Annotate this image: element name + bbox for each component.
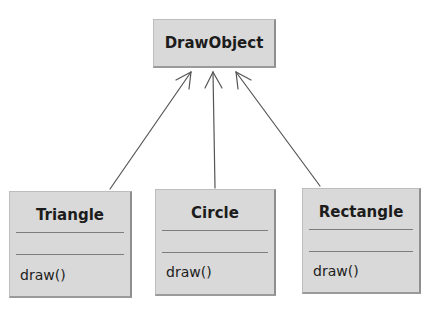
operations-divider [16, 254, 124, 255]
operations-divider [309, 251, 413, 252]
arrow-circle-to-drawobject [205, 72, 222, 188]
arrow-triangle-to-drawobject [110, 72, 191, 189]
operation-draw: draw() [313, 263, 359, 279]
class-name-circle: Circle [156, 204, 274, 222]
class-name-drawobject: DrawObject [154, 20, 274, 66]
operation-draw: draw() [166, 264, 212, 280]
class-box-rectangle[interactable]: Rectangle draw() [302, 188, 421, 294]
arrow-rectangle-to-drawobject [236, 72, 320, 186]
operations-divider [162, 252, 268, 253]
attributes-divider [309, 229, 413, 230]
class-box-circle[interactable]: Circle draw() [155, 189, 276, 296]
class-name-triangle: Triangle [10, 206, 130, 224]
attributes-divider [162, 230, 268, 231]
class-box-triangle[interactable]: Triangle draw() [9, 191, 132, 298]
operation-draw: draw() [20, 267, 66, 283]
attributes-divider [16, 232, 124, 233]
class-name-rectangle: Rectangle [303, 203, 419, 221]
class-box-drawobject[interactable]: DrawObject [153, 19, 276, 68]
